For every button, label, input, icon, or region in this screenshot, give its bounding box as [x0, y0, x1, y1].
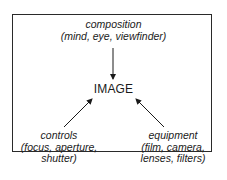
arrows-layer [0, 0, 227, 180]
arrow-equipment-to-image [136, 99, 164, 127]
arrow-controls-to-image [64, 99, 92, 127]
